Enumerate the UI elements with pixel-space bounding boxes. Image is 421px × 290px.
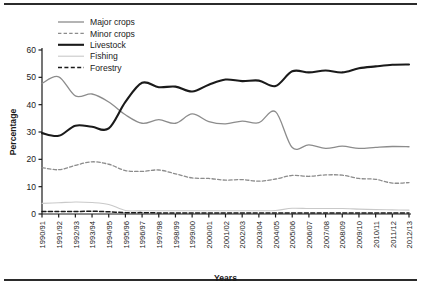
y-axis-tick-label: 50 <box>27 72 37 82</box>
x-axis-tick-label: 1992/93 <box>72 221 81 248</box>
x-axis-tick-label: 2008/09 <box>338 221 347 248</box>
legend-label-forestry: Forestry <box>90 63 122 73</box>
x-axis-tick-label: 2003/04 <box>255 221 264 248</box>
x-axis-tick-label: 2005/06 <box>288 221 297 248</box>
y-axis-tick-label: 10 <box>27 182 37 192</box>
x-axis-tick-label: 2012/13 <box>405 221 414 248</box>
line-chart-svg: 01020304050601990/911991/921992/931993/9… <box>0 0 421 290</box>
x-axis-tick-label: 1998/99 <box>172 221 181 248</box>
x-axis-tick-label: 1991/92 <box>55 221 64 248</box>
series-line-fishing <box>42 202 409 211</box>
legend-label-minor-crops: Minor crops <box>90 29 135 39</box>
series-line-minor-crops <box>42 162 409 184</box>
x-axis-tick-label: 1999/00 <box>188 221 197 248</box>
y-axis-tick-label: 60 <box>27 45 37 55</box>
x-axis-tick-label: 2006/07 <box>305 221 314 248</box>
y-axis-title: Percentage <box>8 109 18 156</box>
series-line-livestock <box>42 64 409 136</box>
x-axis-tick-label: 1993/94 <box>88 221 97 248</box>
legend-label-major-crops: Major crops <box>90 17 135 27</box>
y-axis-tick-label: 40 <box>27 100 37 110</box>
y-axis-tick-label: 30 <box>27 127 37 137</box>
x-axis-tick-label: 2001/02 <box>222 221 231 248</box>
x-axis-title: Years <box>214 273 237 283</box>
x-axis-tick-label: 1990/91 <box>38 221 47 248</box>
series-line-major-crops <box>42 76 409 149</box>
y-axis-tick-label: 20 <box>27 154 37 164</box>
x-axis-tick-label: 2004/05 <box>272 221 281 248</box>
x-axis-tick-label: 1994/95 <box>105 221 114 248</box>
x-axis-tick-label: 2000/01 <box>205 221 214 248</box>
x-axis-tick-label: 1997/98 <box>155 221 164 248</box>
x-axis-tick-label: 2009/10 <box>355 221 364 248</box>
chart-figure: 01020304050601990/911991/921992/931993/9… <box>0 0 421 290</box>
x-axis-tick-label: 2010/11 <box>372 221 381 248</box>
x-axis-tick-label: 2002/03 <box>238 221 247 248</box>
y-axis-tick-label: 0 <box>31 209 36 219</box>
x-axis-tick-label: 1995/96 <box>122 221 131 248</box>
x-axis-tick-label: 2007/08 <box>322 221 331 248</box>
legend-label-livestock: Livestock <box>90 40 127 50</box>
x-axis-tick-label: 2011/12 <box>389 221 398 248</box>
legend-label-fishing: Fishing <box>90 51 118 61</box>
series-line-forestry <box>42 211 409 213</box>
x-axis-tick-label: 1996/97 <box>138 221 147 248</box>
